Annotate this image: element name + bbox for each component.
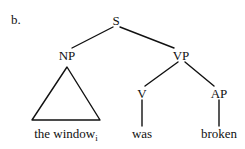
terminal-text: was: [132, 126, 152, 141]
tree-node-np: NP: [59, 49, 76, 62]
terminal-text: the window: [34, 126, 95, 141]
tree-node-s: S: [112, 14, 119, 27]
terminal-text: broken: [201, 126, 237, 141]
tree-node-vp: VP: [173, 49, 190, 62]
terminal-the-window: the windowi: [34, 127, 98, 145]
branch-VP-AP: [185, 62, 214, 86]
branch-S-NP: [72, 27, 113, 48]
np-triangle: [32, 67, 100, 120]
np-triangle-shape: [32, 67, 100, 120]
terminal-broken: broken: [201, 127, 237, 140]
terminal-subscript: i: [95, 133, 98, 143]
tree-node-ap: AP: [211, 87, 228, 100]
terminal-was: was: [132, 127, 152, 140]
syntax-tree-figure: b. S NP VP V AP the windowi was broken: [0, 0, 245, 149]
branch-S-VP: [120, 27, 174, 48]
tree-node-v: V: [137, 87, 146, 100]
branch-VP-V: [145, 62, 178, 86]
